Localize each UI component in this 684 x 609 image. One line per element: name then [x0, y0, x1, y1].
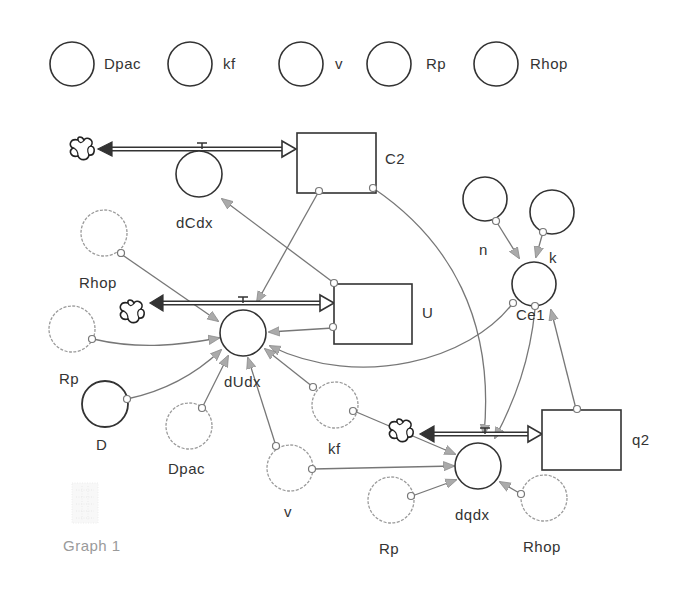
palette-converter-rhop[interactable] — [474, 42, 518, 86]
ghost-label-rhop-a: Rhop — [79, 274, 117, 291]
ghost-label-rp-b: Rp — [379, 540, 399, 557]
link-c2-to-dudx — [257, 191, 319, 302]
palette-converter-dpac[interactable] — [50, 42, 94, 86]
graph-pad-icon[interactable] — [72, 483, 98, 523]
cloud-source-icon — [70, 137, 94, 160]
ghost-label-rhop-b: Rhop — [523, 538, 561, 555]
graph-pad-label[interactable]: Graph 1 — [63, 537, 121, 554]
link-q2-to-ce1 — [551, 310, 576, 409]
palette-label-rp: Rp — [426, 55, 446, 72]
flow-valve-dudx[interactable] — [220, 310, 266, 356]
ghost-kf-a[interactable] — [312, 382, 358, 428]
stock-q2[interactable] — [542, 410, 621, 470]
flow-valve-dqdx[interactable] — [455, 443, 501, 489]
link-rp-to-dudx — [93, 338, 219, 345]
palette-label-v: v — [335, 55, 343, 72]
palette-label-dpac: Dpac — [104, 55, 141, 72]
link-ce1-to-dqdx — [495, 309, 535, 438]
cloud-source-icon — [120, 300, 144, 323]
flow-label-dqdx: dqdx — [455, 506, 490, 523]
ghost-label-rp-a: Rp — [59, 370, 79, 387]
ghost-rhop-b[interactable] — [521, 475, 567, 521]
palette-converter-v[interactable] — [279, 42, 323, 86]
palette-label-rhop: Rhop — [530, 55, 568, 72]
palette-converter-kf[interactable] — [168, 42, 212, 86]
converter-k[interactable] — [530, 190, 574, 234]
converter-label-d: D — [96, 436, 107, 453]
converter-ce1[interactable] — [512, 262, 556, 306]
flow-label-dudx: dUdx — [224, 373, 261, 390]
flow-valve-dcdx[interactable] — [176, 151, 222, 197]
converter-label-n: n — [479, 241, 488, 258]
converter-n[interactable] — [463, 177, 507, 221]
converter-label-ce1: Ce1 — [516, 306, 545, 323]
link-u-to-dudx — [269, 328, 333, 332]
ghost-label-kf-a: kf — [328, 440, 341, 457]
link-v-to-dudx — [248, 358, 276, 446]
ghost-label-v-a: v — [284, 503, 292, 520]
link-d-to-dudx — [127, 350, 221, 399]
converter-d[interactable] — [82, 381, 128, 427]
link-v-to-dqdx — [313, 466, 454, 469]
stock-c2[interactable] — [297, 133, 376, 193]
converter-label-k: k — [549, 249, 557, 266]
cloud-source-icon — [389, 419, 413, 442]
palette-converter-rp[interactable] — [367, 42, 411, 86]
ghost-rp-b[interactable] — [368, 477, 414, 523]
ghost-rp-a[interactable] — [49, 306, 95, 352]
link-u-to-dcdx — [222, 199, 334, 283]
flow-pipe-dqdx[interactable] — [389, 419, 542, 442]
stock-label-u: U — [422, 304, 433, 321]
ghost-v-a[interactable] — [267, 445, 313, 491]
link-rp-to-dqdx — [412, 480, 456, 496]
stock-u[interactable] — [334, 284, 412, 344]
link-n-to-ce1 — [496, 221, 519, 258]
flow-pipe-dcdx[interactable] — [70, 137, 296, 160]
palette-label-kf: kf — [223, 55, 236, 72]
stock-label-c2: C2 — [385, 150, 405, 167]
flow-label-dcdx: dCdx — [176, 214, 213, 231]
stock-label-q2: q2 — [632, 431, 650, 448]
ghost-label-dpac-a: Dpac — [168, 460, 205, 477]
